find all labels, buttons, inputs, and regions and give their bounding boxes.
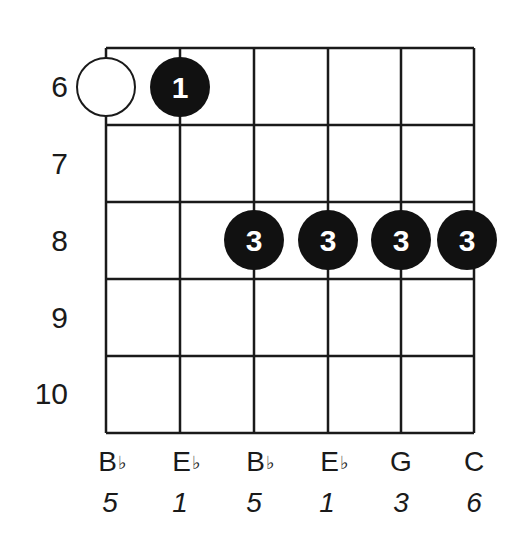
string-note-4: E♭ bbox=[304, 446, 364, 478]
open-circle-marker bbox=[77, 58, 135, 116]
svg-text:1: 1 bbox=[172, 71, 189, 104]
chord-diagram: 1 3 3 3 3 6 7 8 9 10 B♭ E♭ B♭ E♭ G C 5 1… bbox=[0, 0, 527, 554]
string-note-1: B♭ bbox=[82, 446, 142, 478]
fret-label-8: 8 bbox=[8, 224, 68, 258]
finger-dot: 3 bbox=[298, 210, 358, 270]
string-note-6: C bbox=[444, 446, 504, 478]
fret-label-7: 7 bbox=[8, 147, 68, 181]
interval-1: 5 bbox=[80, 487, 140, 519]
fret-label-10: 10 bbox=[8, 377, 68, 411]
finger-dot: 3 bbox=[224, 210, 284, 270]
interval-3: 5 bbox=[224, 487, 284, 519]
string-note-3: B♭ bbox=[230, 446, 290, 478]
svg-text:3: 3 bbox=[246, 224, 263, 257]
finger-dot: 1 bbox=[150, 57, 210, 117]
svg-text:3: 3 bbox=[320, 224, 337, 257]
svg-text:3: 3 bbox=[459, 224, 476, 257]
string-note-5: G bbox=[371, 446, 431, 478]
interval-5: 3 bbox=[371, 487, 431, 519]
fret-label-6: 6 bbox=[8, 70, 68, 104]
finger-dot: 3 bbox=[371, 210, 431, 270]
svg-text:3: 3 bbox=[393, 224, 410, 257]
interval-2: 1 bbox=[150, 487, 210, 519]
string-note-2: E♭ bbox=[156, 446, 216, 478]
finger-dot: 3 bbox=[437, 210, 497, 270]
interval-6: 6 bbox=[444, 487, 504, 519]
fret-label-9: 9 bbox=[8, 301, 68, 335]
interval-4: 1 bbox=[297, 487, 357, 519]
